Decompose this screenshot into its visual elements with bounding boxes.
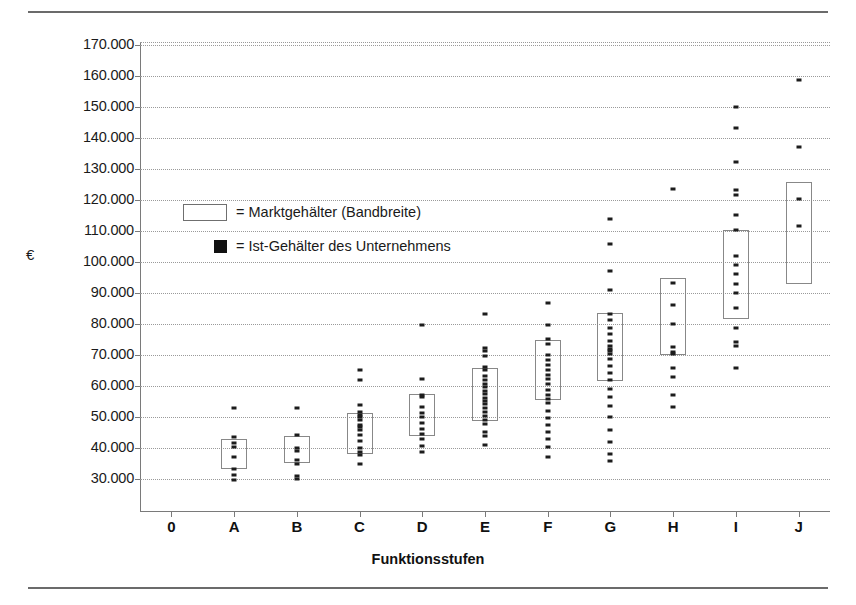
- data-point: [420, 433, 425, 436]
- data-point: [545, 388, 550, 391]
- data-point: [357, 453, 362, 456]
- data-point: [671, 366, 676, 369]
- y-axis-tick: [135, 479, 140, 480]
- data-point: [608, 415, 613, 418]
- data-point: [671, 353, 676, 356]
- data-point: [733, 306, 738, 309]
- data-point: [733, 340, 738, 343]
- y-axis-tick: [135, 76, 140, 77]
- data-point: [608, 372, 613, 375]
- data-point: [357, 440, 362, 443]
- x-axis-tick-label: F: [543, 518, 552, 535]
- x-axis-tick-label: J: [794, 518, 802, 535]
- data-point: [608, 365, 613, 368]
- y-axis-tick: [135, 293, 140, 294]
- data-point: [483, 411, 488, 414]
- data-point: [733, 254, 738, 257]
- x-axis-tick-label: C: [354, 518, 365, 535]
- data-point: [545, 393, 550, 396]
- data-point: [671, 406, 676, 409]
- data-point: [671, 188, 676, 191]
- data-point: [796, 146, 801, 149]
- data-point: [671, 393, 676, 396]
- data-point: [608, 339, 613, 342]
- data-point: [608, 396, 613, 399]
- y-axis-tick-label: 160.000: [83, 67, 134, 83]
- data-point: [357, 462, 362, 465]
- data-point: [420, 422, 425, 425]
- data-point: [608, 353, 613, 356]
- y-axis-tick-label: 90.000: [91, 284, 134, 300]
- x-axis-tick: [360, 511, 361, 517]
- data-point: [733, 127, 738, 130]
- y-axis-tick-label: 110.000: [84, 222, 134, 238]
- data-point: [232, 407, 237, 410]
- data-point: [733, 213, 738, 216]
- data-point: [294, 462, 299, 465]
- data-point: [294, 449, 299, 452]
- y-axis-tick: [135, 231, 140, 232]
- figure-container: € 30.00040.00050.00060.00070.00080.00090…: [0, 0, 856, 605]
- data-point: [796, 78, 801, 81]
- data-point: [294, 407, 299, 410]
- data-point: [545, 409, 550, 412]
- data-point: [483, 407, 488, 410]
- x-axis-tick: [799, 511, 800, 517]
- data-point: [608, 460, 613, 463]
- data-point: [420, 445, 425, 448]
- data-point: [294, 477, 299, 480]
- gridline: [140, 107, 830, 108]
- data-point: [420, 323, 425, 326]
- data-point: [483, 374, 488, 377]
- data-point: [733, 326, 738, 329]
- data-point: [232, 474, 237, 477]
- y-axis-tick-label: 150.000: [83, 98, 134, 114]
- x-axis-tick: [548, 511, 549, 517]
- y-axis-tick: [135, 45, 140, 46]
- y-axis-tick-label: 120.000: [83, 191, 134, 207]
- y-axis-tick-label: 30.000: [91, 470, 134, 486]
- y-axis-tick: [135, 324, 140, 325]
- data-point: [671, 303, 676, 306]
- data-point: [733, 263, 738, 266]
- y-axis-line: [140, 42, 141, 512]
- data-point: [545, 359, 550, 362]
- data-point: [608, 358, 613, 361]
- data-point: [545, 438, 550, 441]
- data-point: [608, 288, 613, 291]
- x-axis-title: Funktionsstufen: [0, 551, 856, 567]
- data-point: [733, 273, 738, 276]
- data-point: [608, 327, 613, 330]
- data-point: [671, 281, 676, 284]
- gridline-top: [140, 42, 830, 43]
- data-point: [608, 379, 613, 382]
- data-point: [671, 376, 676, 379]
- data-point: [733, 367, 738, 370]
- data-point: [420, 396, 425, 399]
- y-axis-tick-label: 40.000: [91, 439, 134, 455]
- salary-band-h: [660, 278, 686, 356]
- data-point: [796, 198, 801, 201]
- data-point: [483, 414, 488, 417]
- data-point: [733, 291, 738, 294]
- data-point: [420, 450, 425, 453]
- y-axis-tick-label: 50.000: [91, 408, 134, 424]
- legend-label-band: = Marktgehälter (Bandbreite): [236, 204, 421, 220]
- x-axis-tick-label: I: [734, 518, 738, 535]
- data-point: [357, 429, 362, 432]
- data-point: [483, 418, 488, 421]
- data-point: [294, 458, 299, 461]
- x-axis-tick: [673, 511, 674, 517]
- data-point: [545, 455, 550, 458]
- data-point: [483, 396, 488, 399]
- data-point: [232, 442, 237, 445]
- y-axis-tick-label: 80.000: [91, 315, 134, 331]
- data-point: [733, 344, 738, 347]
- data-point: [545, 382, 550, 385]
- data-point: [545, 302, 550, 305]
- gridline: [140, 324, 830, 325]
- data-point: [483, 403, 488, 406]
- y-axis-tick: [135, 448, 140, 449]
- data-point: [420, 427, 425, 430]
- data-point: [483, 435, 488, 438]
